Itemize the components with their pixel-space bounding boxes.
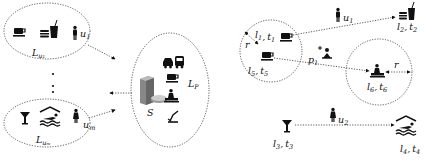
burger-drink-icon [40,20,58,38]
coffee-cup-icon [166,74,178,83]
user-group-u1: u1 Lu₁ [4,3,90,60]
server-group: S LP [131,33,209,147]
coffee-cup-icon [280,33,292,42]
cocktail-icon [282,120,292,133]
burger-drink-icon [399,2,415,20]
node-label-l1-t1: l1,t1 [255,29,275,44]
location-set-label-um: Luₘ [35,134,51,147]
server-label: S [147,107,154,118]
swimming-pool-icon [40,107,60,126]
node-l2-t2: l2,t2 [397,2,417,34]
person-icon [73,26,77,40]
node-l6-t6: l6,t6 [367,64,387,94]
arrow-um-to-server [89,110,115,118]
node-l1-t1: l1,t1 [255,29,292,44]
radius-label-1: r [245,39,251,50]
user-label-um: um [83,119,95,132]
node-label-l4-t4: l4,t4 [400,143,420,156]
vehicles-icon [163,56,184,68]
ellipsis-dots [52,73,54,93]
node-label-l2-t2: l2,t2 [397,21,417,34]
poi-label-p1: p1 [308,54,318,67]
coffee-cup-icon [261,52,273,61]
ski-icon [168,111,178,122]
person-icon [330,108,336,122]
location-set-label-u1: Lu₁ [31,47,45,60]
node-l3-t3: l3,t3 [273,120,293,151]
coffee-cup-icon [13,28,25,37]
node-l5-t5: l5,t5 [248,52,273,78]
poi-icon [318,46,332,58]
radius-label-2: r [394,59,400,70]
user-group-um: um Luₘ [4,99,95,147]
swimming-pool-icon [396,116,416,135]
spa-massage-icon [164,89,179,103]
node-label-l3-t3: l3,t3 [273,138,293,151]
node-label-l5-t5: l5,t5 [248,65,268,78]
cocktail-icon [20,112,30,125]
server-database-icon [140,76,167,105]
user-label-u1-right: u1 [343,12,353,25]
person-icon [73,109,79,123]
person-icon [336,8,340,22]
spa-massage-icon [370,64,385,78]
node-label-l6-t6: l6,t6 [367,81,387,94]
location-set-label-p: LP [187,78,199,91]
user-label-u1: u1 [80,28,90,41]
arrow-u1-to-server [88,45,115,59]
node-l4-t4: l4,t4 [396,116,420,156]
trajectory-l5-to-l6 [274,58,369,71]
diagram-canvas: u1 Lu₁ um Luₘ [0,0,425,160]
